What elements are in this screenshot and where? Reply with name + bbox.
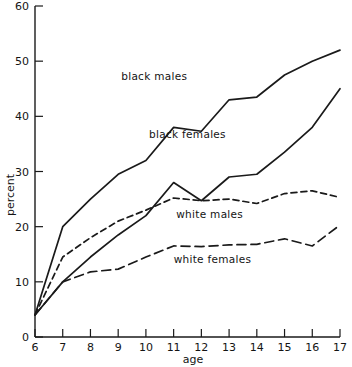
x-tick-label-9: 9 [115,341,122,354]
x-tick-label-16: 16 [305,341,319,354]
series-lines [35,50,340,315]
y-axis-title: percent [4,173,17,216]
series-label-white-females: white females [174,253,252,265]
series-label-black-females: black females [149,128,226,140]
y-tick-label-20: 20 [15,221,29,234]
x-axis-title: age [183,353,204,366]
x-tick-label-13: 13 [222,341,236,354]
x-tick-label-7: 7 [59,341,66,354]
y-tick-label-10: 10 [15,276,29,289]
x-tick-label-14: 14 [250,341,264,354]
chart-container: 0102030405060 67891011121314151617 black… [0,0,352,367]
y-tick-label-30: 30 [15,166,29,179]
line-chart: 0102030405060 67891011121314151617 black… [0,0,352,367]
x-axis-ticks: 67891011121314151617 [32,329,348,354]
y-tick-label-60: 60 [15,0,29,13]
x-tick-label-15: 15 [278,341,292,354]
y-tick-label-0: 0 [22,331,29,344]
series-line-black-females [35,89,340,315]
x-tick-label-6: 6 [32,341,39,354]
y-tick-label-40: 40 [15,110,29,123]
series-line-white-females [35,225,340,315]
y-tick-label-50: 50 [15,55,29,68]
series-label-black-males: black males [121,70,187,82]
series-label-white-males: white males [176,208,243,220]
x-tick-label-10: 10 [139,341,153,354]
x-tick-label-8: 8 [87,341,94,354]
y-axis-ticks: 0102030405060 [15,0,43,344]
x-tick-label-11: 11 [167,341,181,354]
x-tick-label-17: 17 [333,341,347,354]
